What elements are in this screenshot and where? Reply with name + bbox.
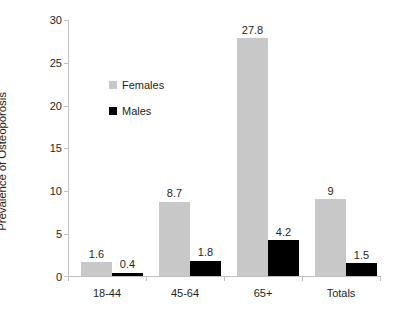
y-tick-mark xyxy=(64,234,68,235)
y-tick-mark xyxy=(64,20,68,21)
y-tick-label: 25 xyxy=(38,57,62,68)
bar-females-18-44 xyxy=(81,262,112,276)
y-tick-label: 5 xyxy=(38,229,62,240)
legend-swatch-males-icon xyxy=(109,107,117,115)
bar-label-females-18-44: 1.6 xyxy=(81,249,112,260)
y-axis-tick-labels: 30 25 20 15 10 5 0 xyxy=(36,0,62,323)
legend-item-females: Females xyxy=(109,79,164,91)
bar-label-males-18-44: 0.4 xyxy=(112,259,143,270)
y-tick-mark xyxy=(64,63,68,64)
legend-label-females: Females xyxy=(122,80,164,91)
bar-males-18-44 xyxy=(112,273,143,276)
y-tick-label: 10 xyxy=(38,186,62,197)
x-tick-mark xyxy=(68,277,69,281)
bar-label-females-totals: 9 xyxy=(315,186,346,197)
chart-legend: Females Males xyxy=(109,79,164,117)
legend-swatch-females-icon xyxy=(109,81,117,89)
bar-females-totals xyxy=(315,199,346,276)
legend-label-males: Males xyxy=(122,106,151,117)
y-tick-label: 30 xyxy=(38,15,62,26)
bar-chart: Prevalence of Osteoporosis 30 25 20 15 1… xyxy=(0,0,397,323)
x-tick-mark xyxy=(380,277,381,281)
bar-label-males-45-64: 1.8 xyxy=(190,247,221,258)
bar-males-totals xyxy=(346,263,377,276)
bar-females-65plus xyxy=(237,38,268,276)
y-tick-mark xyxy=(64,106,68,107)
x-tick-mark xyxy=(224,277,225,281)
y-tick-label: 15 xyxy=(38,143,62,154)
x-category-label-45-64: 45-64 xyxy=(171,287,199,299)
x-category-label-18-44: 18-44 xyxy=(93,287,121,299)
x-tick-mark xyxy=(302,277,303,281)
y-axis-title: Prevalence of Osteoporosis xyxy=(0,0,22,323)
y-axis-line xyxy=(68,20,69,277)
bar-label-females-45-64: 8.7 xyxy=(159,188,190,199)
plot-area: 1.6 0.4 8.7 1.8 27.8 4.2 9 1.5 xyxy=(68,20,381,277)
bar-females-45-64 xyxy=(159,202,190,277)
y-tick-label: 20 xyxy=(38,100,62,111)
y-tick-mark xyxy=(64,191,68,192)
y-tick-label: 0 xyxy=(38,271,62,282)
x-category-label-totals: Totals xyxy=(327,287,356,299)
bar-label-males-totals: 1.5 xyxy=(346,250,377,261)
bar-males-65plus xyxy=(268,240,299,276)
legend-item-males: Males xyxy=(109,105,164,117)
x-tick-mark xyxy=(146,277,147,281)
x-category-label-65plus: 65+ xyxy=(254,287,273,299)
bar-males-45-64 xyxy=(190,261,221,276)
bar-label-females-65plus: 27.8 xyxy=(237,25,268,36)
bar-label-males-65plus: 4.2 xyxy=(268,227,299,238)
y-tick-mark xyxy=(64,148,68,149)
